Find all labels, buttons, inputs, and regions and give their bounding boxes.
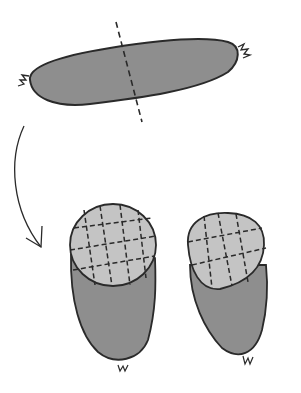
right-sausage-half — [188, 213, 267, 364]
whole-sausage — [18, 22, 250, 122]
curved-arrow-icon — [15, 126, 42, 247]
right-half-twist-icon — [243, 356, 253, 364]
left-sausage-half — [70, 204, 156, 371]
sausage-diagram — [0, 0, 301, 393]
right-end-twist-icon — [238, 44, 250, 58]
left-end-twist-icon — [18, 75, 29, 86]
left-half-twist-icon — [118, 365, 128, 371]
